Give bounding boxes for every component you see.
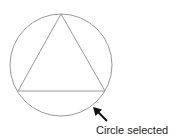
circumscribed-circle[interactable] — [10, 14, 112, 116]
pointer-arrow-icon — [93, 107, 107, 121]
inscribed-triangle[interactable] — [18, 14, 105, 91]
caption-label: Circle selected — [96, 124, 168, 137]
drawing-canvas — [0, 0, 185, 140]
